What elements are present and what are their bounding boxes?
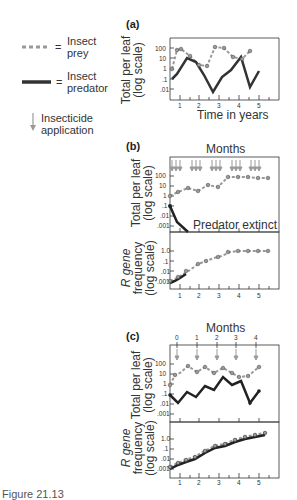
svg-text:4: 4	[237, 102, 241, 109]
svg-text:.1: .1	[162, 76, 168, 83]
svg-text:.1: .1	[163, 258, 169, 265]
svg-text:1.0: 1.0	[161, 435, 170, 442]
svg-text:.01: .01	[161, 268, 170, 275]
svg-text:10: 10	[159, 55, 167, 62]
svg-text:100: 100	[155, 360, 166, 367]
svg-text:4: 4	[237, 479, 241, 486]
svg-text:10: 10	[159, 182, 167, 189]
svg-text:2: 2	[215, 334, 219, 341]
svg-text:1: 1	[178, 292, 182, 299]
svg-text:.01: .01	[160, 86, 169, 93]
svg-text:.01: .01	[160, 400, 169, 407]
svg-text:3: 3	[217, 479, 221, 486]
svg-text:2: 2	[197, 292, 201, 299]
svg-text:.001: .001	[157, 222, 170, 229]
svg-text:3: 3	[234, 334, 238, 341]
svg-text:1: 1	[163, 65, 167, 72]
svg-text:5: 5	[257, 479, 261, 486]
svg-text:0: 0	[175, 334, 179, 341]
svg-text:.001: .001	[157, 465, 170, 472]
svg-text:1: 1	[195, 334, 199, 341]
svg-text:.01: .01	[160, 212, 169, 219]
svg-text:100: 100	[155, 172, 166, 179]
figure-caption: Figure 21.13	[2, 488, 64, 500]
svg-text:1: 1	[178, 479, 182, 486]
svg-text:1: 1	[163, 192, 167, 199]
svg-text:1: 1	[163, 380, 167, 387]
svg-text:100: 100	[155, 45, 166, 52]
svg-text:3: 3	[217, 292, 221, 299]
svg-text:5: 5	[257, 292, 261, 299]
svg-text:.1: .1	[162, 390, 168, 397]
svg-text:.1: .1	[162, 202, 168, 209]
svg-text:.001: .001	[157, 410, 170, 417]
svg-text:1.0: 1.0	[161, 247, 170, 254]
svg-text:3: 3	[217, 102, 221, 109]
svg-text:2: 2	[197, 102, 201, 109]
svg-text:1: 1	[178, 102, 182, 109]
svg-text:5: 5	[257, 102, 261, 109]
svg-text:4: 4	[254, 334, 258, 341]
svg-text:10: 10	[159, 370, 167, 377]
svg-text:.01: .01	[161, 455, 170, 462]
svg-text:2: 2	[197, 479, 201, 486]
svg-text:4: 4	[237, 292, 241, 299]
svg-text:.1: .1	[163, 445, 169, 452]
